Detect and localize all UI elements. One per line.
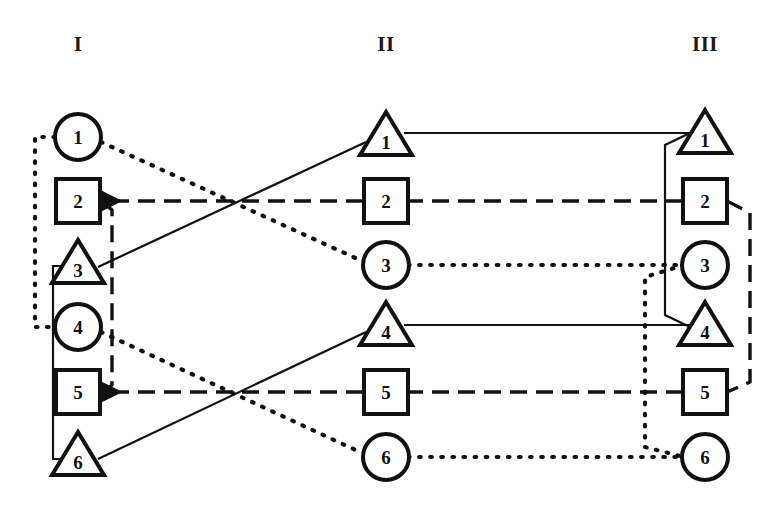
node-I-1-label: 1 <box>73 127 83 148</box>
node-I-6-label: 6 <box>73 452 83 473</box>
edges-I-to-II <box>98 142 366 459</box>
node-II-6[interactable]: 6 <box>363 434 409 480</box>
node-II-4-label: 4 <box>381 322 391 343</box>
node-III-5[interactable]: 5 <box>683 370 727 414</box>
node-II-2[interactable]: 2 <box>364 179 408 223</box>
node-III-6[interactable]: 6 <box>682 434 728 480</box>
node-II-5-label: 5 <box>381 382 391 403</box>
node-II-3[interactable]: 3 <box>363 242 409 288</box>
node-II-1-label: 1 <box>381 132 391 153</box>
connector-III-solid-1-4 <box>665 133 690 327</box>
node-I-4-label: 4 <box>73 317 83 338</box>
node-I-4[interactable]: 4 <box>55 304 101 350</box>
node-III-4[interactable]: 4 <box>679 302 731 345</box>
node-II-4[interactable]: 4 <box>360 302 412 345</box>
node-III-4-label: 4 <box>700 322 710 343</box>
diagram-canvas: I II III <box>0 0 777 510</box>
edges-II-to-III <box>404 133 690 457</box>
node-III-5-label: 5 <box>700 382 710 403</box>
node-I-5[interactable]: 5 <box>56 370 100 414</box>
node-III-3[interactable]: 3 <box>682 242 728 288</box>
node-II-5[interactable]: 5 <box>364 370 408 414</box>
node-I-2[interactable]: 2 <box>56 179 100 223</box>
node-I-6[interactable]: 6 <box>52 432 104 475</box>
node-II-2-label: 2 <box>381 191 391 212</box>
connector-III-dashed-2-5 <box>727 201 750 392</box>
node-II-3-label: 3 <box>381 255 391 276</box>
node-I-1[interactable]: 1 <box>55 114 101 160</box>
connector-I-dashed-2-5 <box>104 203 112 392</box>
column-I-nodes: 1 2 3 4 5 6 <box>52 114 104 475</box>
node-III-1-label: 1 <box>700 130 710 151</box>
node-I-5-label: 5 <box>73 382 83 403</box>
node-III-2[interactable]: 2 <box>683 179 727 223</box>
column-III-nodes: 1 2 3 4 5 6 <box>679 110 731 480</box>
three-column-mapping-diagram: 1 2 3 4 5 6 <box>0 0 777 510</box>
edge-I6-to-II4 <box>98 332 366 459</box>
node-III-3-label: 3 <box>700 255 710 276</box>
column-II-nodes: 1 2 3 4 5 6 <box>360 112 412 480</box>
node-III-2-label: 2 <box>700 191 710 212</box>
edge-I3-to-II1 <box>98 142 366 267</box>
node-II-6-label: 6 <box>381 447 391 468</box>
node-I-3[interactable]: 3 <box>52 240 104 283</box>
node-III-6-label: 6 <box>700 447 710 468</box>
connector-I-solid-3-6 <box>53 266 78 459</box>
node-I-2-label: 2 <box>73 191 83 212</box>
node-I-3-label: 3 <box>73 260 83 281</box>
node-III-1[interactable]: 1 <box>679 110 731 153</box>
